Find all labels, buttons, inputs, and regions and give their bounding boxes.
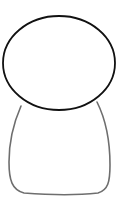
body-outline <box>9 102 110 195</box>
figure-drawing <box>0 0 128 203</box>
drawing-canvas: Simple outline drawing of a figure: oval… <box>0 0 128 203</box>
head-outline <box>3 16 115 110</box>
